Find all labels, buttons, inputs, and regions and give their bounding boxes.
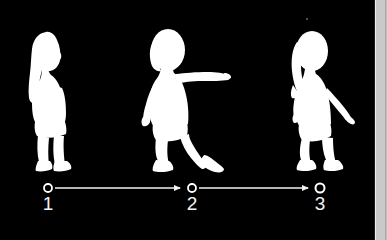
vertical-scrollbar-thumb[interactable] — [375, 0, 386, 240]
image-canvas: 1 2 3 — [0, 0, 387, 240]
child-silhouette-standing — [22, 30, 84, 172]
timeline-node-1 — [44, 184, 52, 192]
image-speck — [306, 18, 308, 20]
timeline-label-2: 2 — [180, 194, 204, 214]
child-silhouette-walking — [283, 30, 361, 172]
child-silhouette-walking-pointing — [140, 28, 234, 174]
timeline-label-1: 1 — [36, 194, 60, 214]
vertical-scrollbar-track[interactable] — [374, 0, 387, 240]
timeline-node-2 — [188, 184, 196, 192]
timeline-node-3 — [316, 184, 325, 193]
timeline-label-3: 3 — [308, 194, 332, 214]
